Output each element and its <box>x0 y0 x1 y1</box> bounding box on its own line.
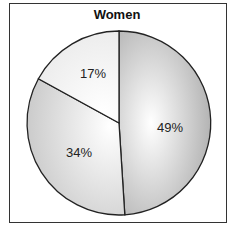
pie-chart <box>0 0 234 231</box>
slice-label-34: 34% <box>66 145 92 160</box>
slice-label-49: 49% <box>157 120 183 135</box>
slice-label-17: 17% <box>80 66 106 81</box>
